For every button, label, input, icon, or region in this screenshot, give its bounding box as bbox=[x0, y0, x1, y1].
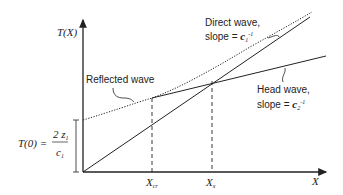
head-wave-slope: slope = c2-1 bbox=[257, 98, 305, 111]
intercept-lhs: T(0) = bbox=[18, 137, 47, 150]
direct-wave-label: Direct wave, bbox=[205, 17, 260, 28]
y-axis-label: T(X) bbox=[57, 26, 78, 39]
intercept-denominator: c1 bbox=[56, 146, 64, 159]
reflected-wave-leader bbox=[113, 88, 134, 102]
travel-time-diagram: T(X) X Xcr Xx Reflected wave Direct wave… bbox=[0, 0, 343, 195]
xx-label: Xx bbox=[205, 176, 216, 189]
direct-wave-slope: slope = c1-1 bbox=[205, 30, 253, 43]
intercept-numerator: 2 z1 bbox=[53, 128, 69, 141]
x-axis-label: X bbox=[311, 175, 320, 187]
reflected-wave-label: Reflected wave bbox=[86, 74, 155, 85]
xcr-label: Xcr bbox=[145, 176, 158, 189]
head-wave-label: Head wave, bbox=[257, 84, 310, 95]
head-wave-leader bbox=[283, 68, 286, 82]
